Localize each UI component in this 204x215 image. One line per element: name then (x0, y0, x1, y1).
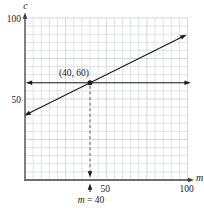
y-tick-label: 50 (12, 95, 22, 105)
x-tick-label: 50 (101, 184, 111, 194)
graph-figure: cm5010050100(40, 60)m = 40 (0, 0, 204, 215)
x-tick-label: 100 (179, 184, 194, 194)
callout-label: m = 40 (78, 195, 105, 205)
marked-point (88, 80, 93, 85)
drop-line-arrowhead (88, 171, 93, 177)
x-axis-arrowhead (188, 178, 194, 183)
y-axis-label: c (23, 0, 28, 11)
y-axis-arrowhead (23, 13, 28, 19)
cost-line-arrowhead-right (180, 35, 187, 40)
y-tick-label: 100 (7, 14, 22, 24)
x-axis-label: m (196, 172, 203, 183)
level-line-arrowhead-left (26, 81, 32, 86)
callout-value: = 40 (85, 195, 105, 205)
callout-arrowhead (88, 184, 93, 190)
graph-canvas: cm5010050100(40, 60)m = 40 (0, 0, 204, 215)
point-label: (40, 60) (59, 68, 89, 79)
